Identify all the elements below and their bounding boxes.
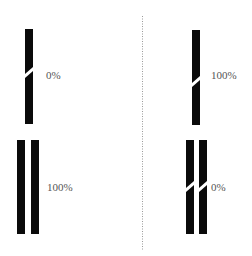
bar-segment-upper	[192, 30, 200, 83]
bar-segment-lower	[192, 80, 200, 125]
left-top-label: 0%	[46, 69, 61, 81]
bar-segment-upper	[25, 29, 33, 74]
bar-segment-lower	[25, 71, 33, 124]
bar-2-upper	[199, 140, 207, 188]
right-bottom-label: 0%	[211, 181, 226, 193]
right-top-bar-group	[192, 30, 200, 125]
bar-solid-2	[31, 140, 39, 234]
bar-1-upper	[186, 140, 194, 188]
right-top-label: 100%	[211, 69, 237, 81]
left-top-bar-group	[25, 29, 33, 124]
bar-2-lower	[199, 185, 207, 234]
left-bottom-label: 100%	[47, 181, 73, 193]
right-bottom-bar-group	[186, 140, 207, 234]
left-bottom-bar-group	[17, 140, 39, 234]
bar-solid-1	[17, 140, 25, 234]
diagram-svg: 0% 100% 100% 0%	[0, 0, 252, 256]
bar-1-lower	[186, 185, 194, 234]
diagram-canvas: 0% 100% 100% 0%	[0, 0, 252, 256]
